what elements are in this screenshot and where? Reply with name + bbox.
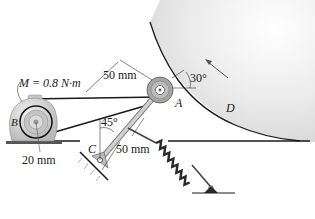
- pin-label-c: C: [88, 143, 96, 155]
- drum-d: [150, 0, 315, 142]
- motor-label-b: B: [11, 117, 18, 128]
- pin-support-c: [78, 152, 108, 181]
- spring: [128, 128, 235, 193]
- mechanism-diagram: [0, 0, 315, 219]
- arm-lower-dim: 50 mm: [116, 143, 150, 155]
- arm-upper-dim: 50 mm: [103, 69, 137, 81]
- arm-angle-label: 45°: [101, 116, 118, 128]
- moment-label: M = 0.8 N·m: [19, 77, 81, 89]
- figure-caption: [130, 205, 200, 211]
- motor-radius-dim: 20 mm: [22, 154, 56, 166]
- drum-label-d: D: [226, 102, 235, 114]
- pulley-a: [147, 77, 173, 103]
- pulley-label-a: A: [175, 97, 182, 109]
- contact-angle-label: 30°: [190, 72, 207, 84]
